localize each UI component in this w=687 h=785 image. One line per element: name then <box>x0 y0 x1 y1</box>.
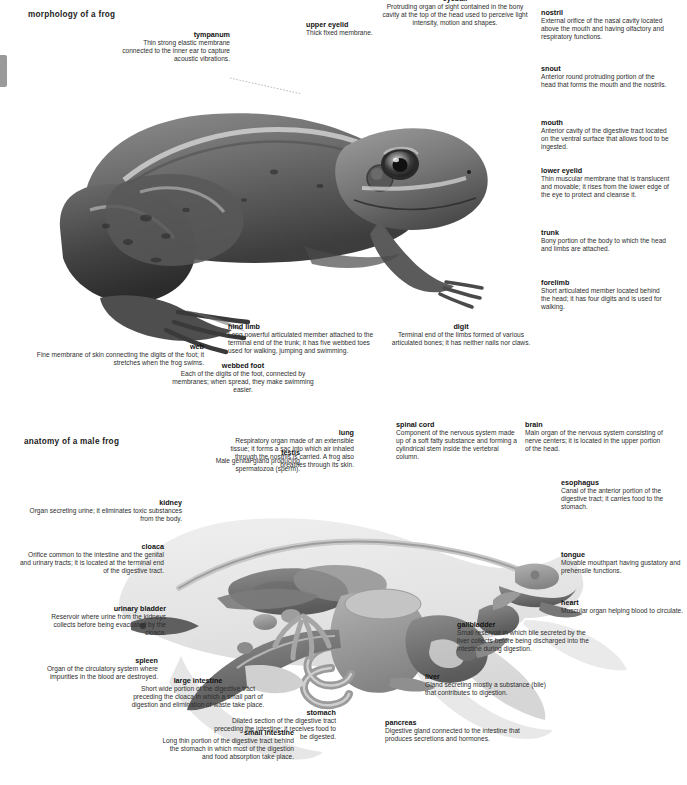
label-web: web Fine membrane of skin connecting the… <box>34 342 204 367</box>
label-urinary-bladder-term: urinary bladder <box>34 604 166 613</box>
label-eyeball-description: Protruding organ of sight contained in t… <box>382 3 527 26</box>
label-large-intestine-description: Short wide portion of the digestive trac… <box>132 685 265 708</box>
label-nostril-term: nostril <box>541 8 669 17</box>
label-mouth: mouth Anterior cavity of the digestive t… <box>541 118 669 151</box>
label-upper-eyelid-description: Thick fixed membrane. <box>306 29 373 36</box>
label-lower-eyelid-description: Thin muscular membrane that is transluce… <box>541 175 669 198</box>
label-small-intestine: small intestine Long thin portion of the… <box>160 728 294 761</box>
frog-eye <box>381 148 419 180</box>
label-gallbladder-description: Small reservoir in which bile secreted b… <box>457 629 589 652</box>
label-mouth-term: mouth <box>541 118 669 127</box>
label-lung-description: Respiratory organ made of an extensible … <box>230 437 354 468</box>
label-pancreas-description: Digestive gland connected to the intesti… <box>385 727 520 742</box>
label-kidney-description: Organ secreting urine; it eliminates tox… <box>30 507 182 522</box>
label-tongue: tongue Movable mouthpart having gustator… <box>561 550 687 575</box>
label-lung: lung Respiratory organ made of an extens… <box>218 428 354 470</box>
label-esophagus-description: Canal of the anterior portion of the dig… <box>561 487 663 510</box>
label-hind-limb-term: hind limb <box>228 322 376 331</box>
label-lower-eyelid: lower eyelid Thin muscular membrane that… <box>541 166 671 199</box>
label-snout-term: snout <box>541 64 669 73</box>
label-trunk: trunk Bony portion of the body to which … <box>541 228 669 253</box>
label-small-intestine-description: Long thin portion of the digestive tract… <box>162 737 294 760</box>
label-cloaca-term: cloaca <box>16 542 164 551</box>
label-kidney: kidney Organ secreting urine; it elimina… <box>22 498 182 523</box>
frog-photograph <box>28 60 498 360</box>
label-trunk-description: Bony portion of the body to which the he… <box>541 237 666 252</box>
label-heart-term: heart <box>561 598 687 607</box>
label-forelimb: forelimb Short articulated member locate… <box>541 278 669 311</box>
label-esophagus-term: esophagus <box>561 478 687 487</box>
label-brain-term: brain <box>525 420 667 429</box>
label-liver: liver Gland secreting mostly a substance… <box>425 672 553 697</box>
label-tympanum-term: tympanum <box>118 30 230 39</box>
label-eyeball: eyeball Protruding organ of sight contai… <box>382 0 528 27</box>
label-lower-eyelid-term: lower eyelid <box>541 166 671 175</box>
label-kidney-term: kidney <box>22 498 182 507</box>
label-spleen-term: spleen <box>30 656 158 665</box>
label-spinal-cord-term: spinal cord <box>396 420 520 429</box>
label-forelimb-description: Short articulated member located behind … <box>541 287 662 310</box>
label-lung-term: lung <box>218 428 354 437</box>
label-digit-description: Terminal end of the limbs formed of vari… <box>392 331 531 346</box>
label-tympanum-description: Thin strong elastic membrane connected t… <box>122 39 230 62</box>
label-small-intestine-term: small intestine <box>160 728 294 737</box>
label-nostril-description: External orifice of the nasal cavity loc… <box>541 17 664 40</box>
label-brain-description: Main organ of the nervous system consist… <box>525 429 663 452</box>
label-web-description: Fine membrane of skin connecting the dig… <box>37 351 204 366</box>
label-gallbladder: gallbladder Small reservoir in which bil… <box>457 620 591 653</box>
label-spleen-description: Organ of the circulatory system where im… <box>47 665 158 680</box>
label-snout: snout Anterior round protruding portion … <box>541 64 669 89</box>
label-gallbladder-term: gallbladder <box>457 620 591 629</box>
label-liver-term: liver <box>425 672 553 681</box>
label-nostril: nostril External orifice of the nasal ca… <box>541 8 669 41</box>
section-title-anatomy: anatomy of a male frog <box>24 437 119 446</box>
label-urinary-bladder-description: Reservoir where urine from the kidneys c… <box>51 613 166 636</box>
label-pancreas: pancreas Digestive gland connected to th… <box>385 718 521 743</box>
label-digit-term: digit <box>386 322 536 331</box>
label-mouth-description: Anterior cavity of the digestive tract l… <box>541 127 669 150</box>
label-forelimb-term: forelimb <box>541 278 669 287</box>
label-tongue-description: Movable mouthpart having gustatory and p… <box>561 559 681 574</box>
label-tympanum: tympanum Thin strong elastic membrane co… <box>118 30 230 63</box>
label-spinal-cord-description: Component of the nervous system made up … <box>396 429 517 460</box>
label-snout-description: Anterior round protruding portion of the… <box>541 73 666 88</box>
label-spleen: spleen Organ of the circulatory system w… <box>30 656 158 681</box>
label-trunk-term: trunk <box>541 228 669 237</box>
label-urinary-bladder: urinary bladder Reservoir where urine fr… <box>34 604 166 637</box>
left-edge-tab <box>0 55 7 87</box>
label-tongue-term: tongue <box>561 550 687 559</box>
label-esophagus: esophagus Canal of the anterior portion … <box>561 478 687 511</box>
label-digit: digit Terminal end of the limbs formed o… <box>386 322 536 347</box>
label-pancreas-term: pancreas <box>385 718 521 727</box>
section-title-morphology: morphology of a frog <box>28 10 115 19</box>
label-web-term: web <box>34 342 204 351</box>
label-cloaca: cloaca Orifice common to the intestine a… <box>16 542 164 575</box>
label-heart: heart Muscular organ helping blood to ci… <box>561 598 687 615</box>
label-webbed-foot-description: Each of the digits of the foot, connecte… <box>172 370 313 393</box>
label-heart-description: Muscular organ helping blood to circulat… <box>561 607 683 614</box>
label-cloaca-description: Orifice common to the intestine and the … <box>20 551 164 574</box>
label-liver-description: Gland secreting mostly a substance (bile… <box>425 681 546 696</box>
label-brain: brain Main organ of the nervous system c… <box>525 420 667 453</box>
label-spinal-cord: spinal cord Component of the nervous sys… <box>396 420 520 462</box>
label-hind-limb: hind limb Long powerful articulated memb… <box>228 322 376 355</box>
label-hind-limb-description: Long powerful articulated member attache… <box>228 331 373 354</box>
